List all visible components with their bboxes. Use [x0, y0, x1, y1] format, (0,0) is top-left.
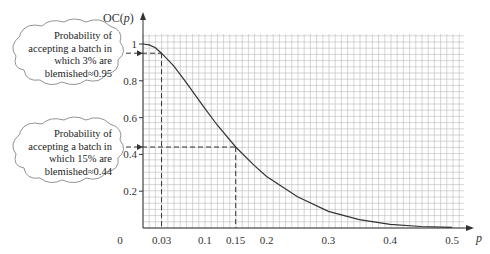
x-tick-label: 0.5: [445, 234, 459, 246]
y-axis-label: OC(p): [103, 11, 134, 25]
callout-line: accepting a batch in: [12, 141, 112, 154]
y-tick-label: 0.6: [123, 112, 137, 124]
callout-line: which 3% are: [12, 55, 112, 68]
y-tick-label: 0.2: [123, 185, 137, 197]
callout-line: accepting a batch in: [12, 43, 112, 56]
x-axis-arrow-icon: [466, 225, 474, 231]
axes: [140, 12, 474, 231]
x-tick-label: 0.2: [260, 234, 274, 246]
y-axis-arrow-icon: [140, 12, 146, 20]
arrow-icon: [137, 144, 143, 150]
callout-line: which 15% are: [12, 153, 112, 166]
y-tick-label: 0.4: [123, 148, 137, 160]
x-tick-label: 0: [117, 234, 123, 246]
callout-line: blemished≈0.95: [12, 68, 112, 81]
x-tick-label: 0.3: [322, 234, 336, 246]
tick-labels: 0.20.40.60.8100.030.10.150.20.30.40.5: [117, 38, 459, 246]
x-tick-label: 0.15: [226, 234, 246, 246]
y-tick-label: 0.8: [123, 75, 137, 87]
x-axis-label: p: [475, 231, 482, 245]
arrow-icon: [137, 50, 143, 56]
y-tick-label: 1: [132, 38, 138, 50]
x-tick-label: 0.4: [383, 234, 397, 246]
callout-line: Probability of: [12, 30, 112, 43]
x-tick-label: 0.03: [152, 234, 172, 246]
callout-3-percent: Probability of accepting a batch in whic…: [12, 30, 112, 80]
x-tick-label: 0.1: [198, 234, 212, 246]
callout-15-percent: Probability of accepting a batch in whic…: [12, 128, 112, 178]
oc-curve: [143, 44, 452, 227]
callout-line: Probability of: [12, 128, 112, 141]
callout-line: blemished≈0.44: [12, 166, 112, 179]
